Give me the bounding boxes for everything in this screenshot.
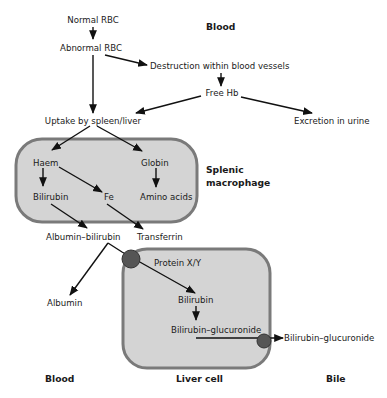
edge-albumin-bilirubin-to-albumin xyxy=(70,243,108,295)
node-free-hb: Free Hb xyxy=(206,88,239,98)
region-label-blood-bottom: Blood xyxy=(45,373,74,384)
edge-abnormal-to-destruction xyxy=(105,55,147,65)
node-albumin: Albumin xyxy=(47,298,82,308)
node-globin: Globin xyxy=(141,158,169,168)
edge-freehb-to-uptake xyxy=(136,96,201,113)
edge-freehb-to-urine xyxy=(241,97,312,113)
region-label-macrophage: macrophage xyxy=(206,177,270,188)
node-fe: Fe xyxy=(104,192,114,202)
node-abnormal-rbc: Abnormal RBC xyxy=(60,43,122,53)
node-bilirubin-mac: Bilirubin xyxy=(33,192,68,202)
node-bilirubin-glucuronide-liver: Bilirubin–glucuronide xyxy=(171,325,261,335)
node-excretion-urine: Excretion in urine xyxy=(294,116,370,126)
region-label-blood-top: Blood xyxy=(206,21,235,32)
region-label-splenic: Splenic xyxy=(206,164,244,175)
node-protein-xy: Protein X/Y xyxy=(154,258,202,268)
node-transferrin: Transferrin xyxy=(136,232,183,242)
region-label-bile: Bile xyxy=(326,373,346,384)
node-albumin-bilirubin: Albumin–bilirubin xyxy=(46,232,121,242)
bilirubin-metabolism-diagram: Blood Splenic macrophage Blood Liver cel… xyxy=(0,0,387,398)
node-uptake: Uptake by spleen/liver xyxy=(45,116,142,126)
node-amino-acids: Amino acids xyxy=(140,192,193,202)
node-bilirubin-glucuronide-bile: Bilirubin–glucuronide xyxy=(284,333,374,343)
region-label-liver-cell: Liver cell xyxy=(176,373,223,384)
protein-xy-transporter xyxy=(122,250,140,268)
node-haem: Haem xyxy=(33,158,58,168)
bile-transporter xyxy=(257,334,271,348)
node-destruction: Destruction within blood vessels xyxy=(150,61,290,71)
node-normal-rbc: Normal RBC xyxy=(67,15,119,25)
node-bilirubin-liver: Bilirubin xyxy=(178,295,213,305)
